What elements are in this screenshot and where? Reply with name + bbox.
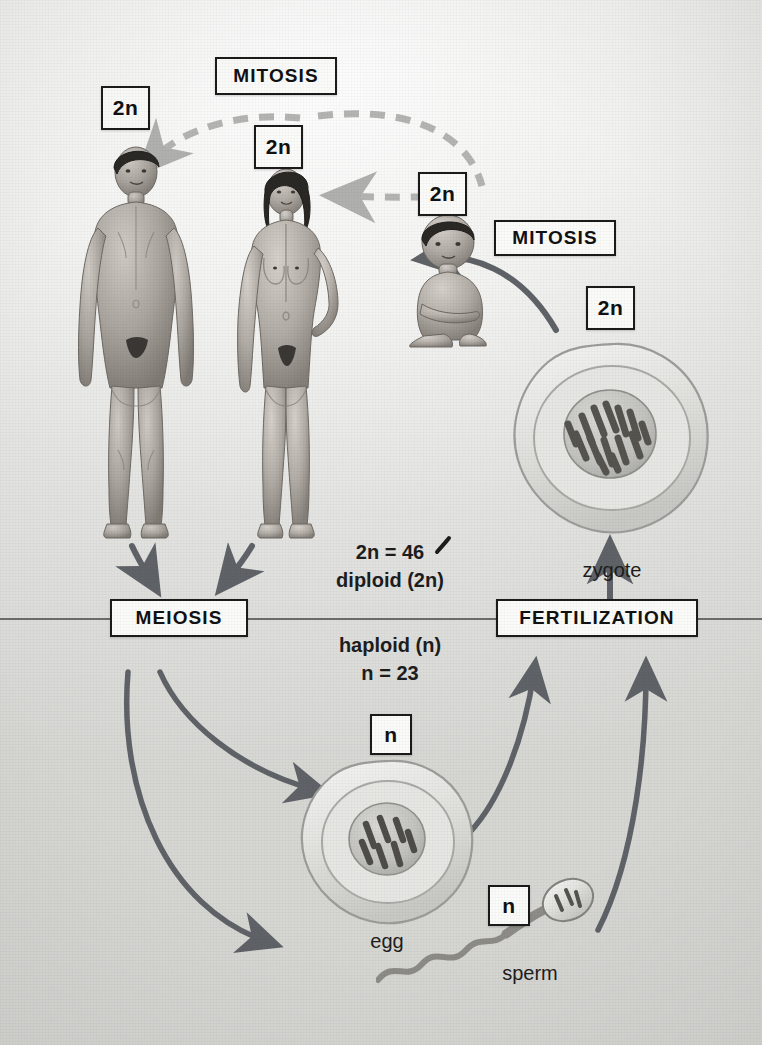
diploid-word-text: diploid (2n): [336, 569, 444, 592]
haploid-count-text: n = 23: [361, 662, 418, 685]
diploid-pointer-layer: [0, 0, 762, 1045]
diploid-pointer-tick: [437, 538, 449, 552]
sperm-caption: sperm: [502, 962, 558, 985]
life-cycle-diagram: MITOSIS MITOSIS MEIOSIS FERTILIZATION 2n…: [0, 0, 762, 1045]
egg-caption: egg: [370, 930, 403, 953]
haploid-word-text: haploid (n): [339, 634, 441, 657]
zygote-caption: zygote: [583, 559, 642, 582]
